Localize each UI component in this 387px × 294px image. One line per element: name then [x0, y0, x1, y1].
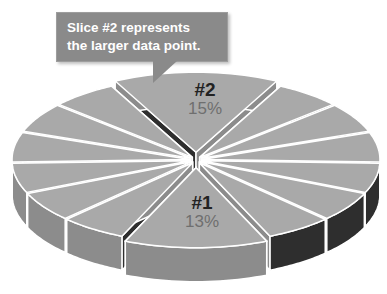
slice-1-label: #1 13% [180, 193, 224, 231]
callout-box: Slice #2 represents the larger data poin… [56, 12, 228, 62]
slice-1-id: #1 [180, 193, 224, 212]
slice-2-percent: 15% [183, 99, 227, 118]
callout-pointer [153, 61, 177, 83]
slice-2-id: #2 [183, 80, 227, 99]
slice-1-percent: 13% [180, 212, 224, 231]
callout-line-1: Slice #2 represents [67, 20, 190, 35]
slice-2-label: #2 15% [183, 80, 227, 118]
callout-line-2: the larger data point. [67, 38, 201, 53]
